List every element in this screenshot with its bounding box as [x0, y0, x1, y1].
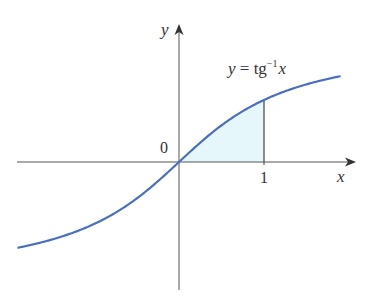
eq-x: x	[278, 59, 287, 78]
function-label: y = tg−1x	[226, 58, 287, 78]
arctan-figure: y x 0 1 y = tg−1x	[0, 0, 367, 297]
shaded-area	[179, 100, 264, 162]
eq-y: y	[226, 59, 236, 78]
y-axis-label: y	[159, 20, 169, 39]
origin-label: 0	[160, 139, 168, 156]
x-axis-label: x	[336, 167, 345, 186]
plot-area: y x 0 1 y = tg−1x	[0, 0, 367, 297]
tick-label-one: 1	[260, 169, 268, 186]
eq-tg: = tg	[236, 59, 268, 78]
eq-sup: −1	[267, 58, 278, 69]
